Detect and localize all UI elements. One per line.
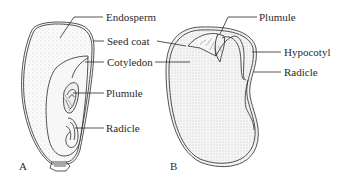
panel-label-b: B <box>170 160 177 172</box>
panel-label-a: A <box>19 160 27 172</box>
label-radicle-a: Radicle <box>106 122 140 134</box>
label-cotyledon: Cotyledon <box>107 56 153 68</box>
label-seed-coat: Seed coat <box>107 35 149 47</box>
label-hypocotyl: Hypocotyl <box>284 46 330 58</box>
seed-diagram <box>0 0 340 185</box>
bean-seed-illustration <box>166 27 258 167</box>
corn-seed-illustration <box>22 22 94 171</box>
label-endosperm: Endosperm <box>106 11 156 23</box>
label-plumule-a: Plumule <box>106 87 143 99</box>
label-plumule-b: Plumule <box>259 11 296 23</box>
label-radicle-b: Radicle <box>284 66 318 78</box>
